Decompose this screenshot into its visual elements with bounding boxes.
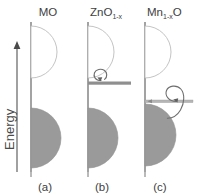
panel-a-valence-band	[31, 108, 61, 168]
panel-b-conduction-band	[88, 26, 114, 78]
panel-b-title: ZnO1-x	[90, 6, 123, 20]
panel-a-caption: (a)	[38, 181, 52, 193]
panel-a-title: MO	[39, 6, 58, 18]
energy-axis-label: Energy	[2, 108, 17, 150]
band-diagram-canvas: Energy MO (a) ZnO1-x	[0, 0, 205, 196]
panel-a-conduction-band	[31, 26, 57, 78]
panel-c-defect-band	[145, 100, 193, 103]
panel-c-title-sub: 1-x	[163, 13, 173, 20]
panel-c-caption: (c)	[153, 181, 167, 193]
up-arrow-icon	[14, 41, 21, 49]
panel-c-valence-band	[145, 104, 176, 166]
panel-b-title-sub: 1-x	[112, 13, 122, 20]
panel-b-defect-band	[88, 82, 131, 85]
panel-c-conduction-band	[145, 26, 171, 78]
panel-a-title-main: MO	[39, 6, 58, 18]
panel-a: MO (a)	[31, 6, 61, 193]
panel-c-title-tail: O	[173, 6, 182, 18]
panel-c: Mn1-xO (c)	[145, 6, 193, 193]
energy-axis-group: Energy	[2, 41, 20, 172]
panel-c-title: Mn1-xO	[147, 6, 182, 20]
panel-b: ZnO1-x (b)	[88, 6, 131, 193]
panel-b-caption: (b)	[95, 181, 109, 193]
panel-b-valence-band	[88, 108, 118, 168]
panel-c-title-main: Mn	[147, 6, 163, 18]
panel-b-title-main: ZnO	[90, 6, 112, 18]
band-structure-figure: Energy MO (a) ZnO1-x	[0, 0, 205, 196]
